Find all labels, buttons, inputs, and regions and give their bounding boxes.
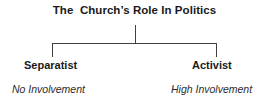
diagram-canvas: The Church’s Role In Politics Separatist… [0,0,269,104]
bracket-lines [52,25,217,57]
branch-label-activist: Activist [192,59,232,71]
branch-label-separatist: Separatist [24,59,77,71]
sub-label-no-involvement: No Involvement [12,83,85,95]
sub-label-high-involvement: High Involvement [171,83,252,95]
